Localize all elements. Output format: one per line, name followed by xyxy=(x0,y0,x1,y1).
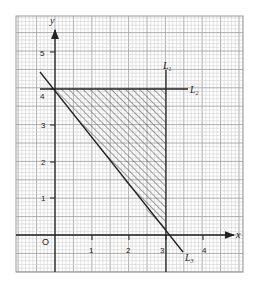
L2-label: L2 xyxy=(189,84,199,96)
y-axis-label: y xyxy=(49,15,55,26)
y-tick-label-5: 5 xyxy=(40,49,45,58)
x-axis-label: x xyxy=(235,229,241,240)
y-tick-label-4: 4 xyxy=(40,92,45,101)
x-tick-label-4: 4 xyxy=(202,246,207,255)
y-tick-label-3: 3 xyxy=(41,121,46,130)
L3-label: L3 xyxy=(184,252,194,264)
x-tick-label-1: 1 xyxy=(89,246,94,255)
x-tick-label-2: 2 xyxy=(126,246,131,255)
y-tick-label-1: 1 xyxy=(41,194,46,203)
graph-figure: y x O 1 2 3 4 1 2 3 4 5 L1 L2 L3 xyxy=(0,0,253,282)
y-tick-label-2: 2 xyxy=(41,158,46,167)
graph-svg: y x O 1 2 3 4 1 2 3 4 5 L1 L2 L3 xyxy=(0,0,253,282)
origin-label: O xyxy=(42,237,49,247)
x-tick-label-3: 3 xyxy=(160,246,165,255)
